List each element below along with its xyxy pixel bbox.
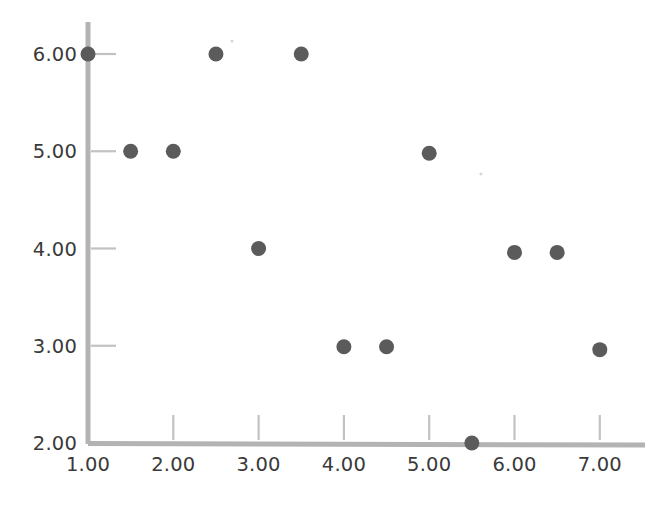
x-tick-label: 5.00 — [407, 453, 451, 476]
data-point — [336, 339, 351, 354]
data-point — [294, 47, 309, 62]
y-axis-ticks: 2.003.004.005.006.00 — [33, 43, 116, 455]
data-point — [507, 245, 522, 260]
data-point — [464, 436, 479, 451]
x-tick-label: 3.00 — [236, 453, 280, 476]
data-point — [208, 47, 223, 62]
y-tick-label: 6.00 — [33, 43, 77, 66]
data-point — [81, 47, 96, 62]
data-point — [251, 241, 266, 256]
y-tick-label: 4.00 — [33, 238, 77, 261]
data-point — [166, 144, 181, 159]
data-point — [550, 245, 565, 260]
x-tick-label: 2.00 — [151, 453, 195, 476]
data-point — [123, 144, 138, 159]
y-tick-label: 5.00 — [33, 140, 77, 163]
data-point — [422, 146, 437, 161]
scatter-plot-figure: 2.003.004.005.006.00 1.002.003.004.005.0… — [0, 0, 671, 516]
y-tick-label: 2.00 — [33, 432, 77, 455]
x-tick-label: 4.00 — [322, 453, 366, 476]
data-point — [592, 342, 607, 357]
paper-speck — [230, 39, 233, 42]
x-tick-label: 1.00 — [66, 453, 110, 476]
x-axis-line — [88, 444, 645, 446]
paper-speck — [479, 172, 482, 175]
x-tick-label: 6.00 — [492, 453, 536, 476]
data-point-layer — [81, 47, 608, 451]
y-tick-label: 3.00 — [33, 335, 77, 358]
plot-canvas: 2.003.004.005.006.00 1.002.003.004.005.0… — [0, 0, 671, 516]
data-point — [379, 339, 394, 354]
x-tick-label: 7.00 — [578, 453, 622, 476]
